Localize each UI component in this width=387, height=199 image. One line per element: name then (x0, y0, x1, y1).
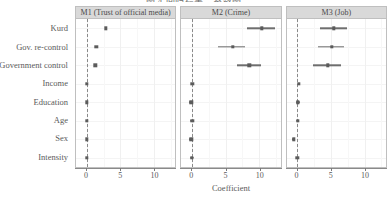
zero-reference-line (297, 19, 298, 167)
estimate-point (85, 138, 88, 141)
x-axis-line (180, 168, 281, 169)
x-axis-title: Coefficient (75, 183, 387, 193)
gridline-horizontal (181, 84, 280, 85)
gridline-horizontal (181, 158, 280, 159)
estimate-point (247, 64, 250, 67)
gridline-horizontal (287, 121, 386, 122)
estimate-point (326, 64, 329, 67)
facet-panel-3: M3 (Job) (286, 6, 387, 168)
y-axis-label-intensity: Intensity (38, 152, 68, 161)
gridline-horizontal (76, 102, 175, 103)
x-axis-tick-label: 10 (361, 171, 369, 180)
gridline-horizontal (287, 139, 386, 140)
gridline-horizontal (181, 139, 280, 140)
gridline-horizontal (287, 84, 386, 85)
x-axis-tick-label: 0 (189, 171, 193, 180)
gridline-horizontal (76, 84, 175, 85)
x-axis-line (286, 168, 387, 169)
estimate-point (231, 45, 234, 48)
x-axis-tick-label: 5 (329, 171, 333, 180)
estimate-point (85, 119, 88, 122)
gridline-horizontal (76, 158, 175, 159)
estimate-point (332, 27, 335, 30)
facet-panel-1: M1 (Trust of official media) (75, 6, 176, 168)
x-axis-tick-label: 10 (256, 171, 264, 180)
plot-area-1 (75, 18, 176, 168)
gridline-vertical-minor (348, 19, 349, 167)
gridline-vertical-minor (137, 19, 138, 167)
estimate-point (191, 119, 194, 122)
x-axis-tick-label: 5 (118, 171, 122, 180)
zero-reference-line (87, 19, 88, 167)
coefficient-plot-figure: 图 4 回归结果：系数图 KurdGov. re-controlGovernme… (0, 0, 387, 199)
gridline-horizontal (76, 65, 175, 66)
estimate-point (85, 101, 88, 104)
x-axis-tick-label: 5 (224, 171, 228, 180)
facet-strip-label-3: M3 (Job) (286, 6, 387, 18)
y-axis-label-gov-re-control: Gov. re-control (16, 42, 68, 51)
zero-reference-line (192, 19, 193, 167)
gridline-vertical (226, 19, 227, 167)
gridline-vertical (154, 19, 155, 167)
estimate-point (190, 138, 193, 141)
estimate-point (296, 101, 299, 104)
gridline-vertical-minor (104, 19, 105, 167)
gridline-vertical-minor (314, 19, 315, 167)
y-axis-label-column: KurdGov. re-controlGovernment controlInc… (0, 19, 72, 166)
gridline-horizontal (76, 139, 175, 140)
x-axis-2: 0510 (180, 168, 281, 182)
gridline-vertical (365, 19, 366, 167)
gridline-horizontal (181, 65, 280, 66)
estimate-point (190, 156, 193, 159)
x-axis-tick-label: 0 (84, 171, 88, 180)
gridline-vertical-minor (171, 19, 172, 167)
gridline-horizontal (181, 121, 280, 122)
facet-panel-2: M2 (Crime) (180, 6, 281, 168)
facet-strip-label-2: M2 (Crime) (180, 6, 281, 18)
estimate-point (297, 82, 300, 85)
estimate-point (292, 138, 295, 141)
y-axis-label-sex: Sex (55, 134, 68, 143)
estimate-point (330, 45, 333, 48)
estimate-point (296, 156, 299, 159)
gridline-vertical (120, 19, 121, 167)
gridline-horizontal (287, 102, 386, 103)
gridline-horizontal (76, 47, 175, 48)
y-axis-label-education: Education (34, 97, 68, 106)
gridline-vertical-minor (276, 19, 277, 167)
y-axis-label-age: Age (54, 116, 68, 125)
estimate-point (260, 27, 263, 30)
gridline-horizontal (76, 121, 175, 122)
gridline-vertical-minor (381, 19, 382, 167)
estimate-point (85, 156, 88, 159)
gridline-horizontal (287, 158, 386, 159)
estimate-point (104, 27, 107, 30)
x-axis-tick-label: 0 (295, 171, 299, 180)
estimate-point (93, 64, 96, 67)
x-axis-line (75, 168, 176, 169)
y-axis-label-income: Income (43, 79, 69, 88)
estimate-point (190, 101, 193, 104)
facet-strip-label-1: M1 (Trust of official media) (75, 6, 176, 18)
gridline-vertical-minor (242, 19, 243, 167)
facet-panel-row: M1 (Trust of official media)M2 (Crime)M3… (75, 6, 387, 168)
estimate-point (85, 82, 88, 85)
x-axis-1: 0510 (75, 168, 176, 182)
y-axis-label-government-control: Government control (0, 60, 68, 69)
gridline-vertical (331, 19, 332, 167)
y-axis-label-kurd: Kurd (51, 24, 68, 33)
estimate-point (296, 119, 299, 122)
figure-title: 图 4 回归结果：系数图 (0, 0, 387, 2)
x-axis-tick-label: 10 (150, 171, 158, 180)
gridline-horizontal (76, 28, 175, 29)
gridline-vertical (259, 19, 260, 167)
estimate-point (95, 45, 98, 48)
x-axis-row: 051005100510 (75, 168, 387, 182)
plot-area-2 (180, 18, 281, 168)
x-axis-3: 0510 (286, 168, 387, 182)
gridline-vertical-minor (209, 19, 210, 167)
plot-area-3 (286, 18, 387, 168)
gridline-horizontal (181, 102, 280, 103)
estimate-point (191, 82, 194, 85)
